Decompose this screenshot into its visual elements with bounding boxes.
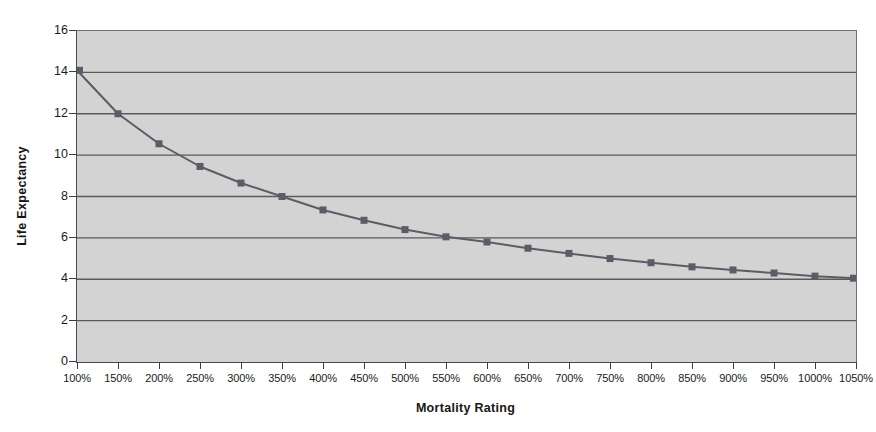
x-axis-tick-mark [528,362,529,369]
y-axis-tick-labels: 0246810121416 [28,30,68,361]
data-point-marker [361,217,368,224]
x-axis-tick-mark [200,362,201,369]
x-axis-tick-mark [77,362,78,369]
y-axis-tick-label: 10 [34,147,68,161]
data-point-marker [402,226,409,233]
x-axis-tick-mark [610,362,611,369]
x-axis-tick-label: 300% [227,372,255,384]
x-axis-tick-label: 550% [432,372,460,384]
x-axis-tick-label: 450% [350,372,378,384]
data-point-marker [77,67,83,74]
data-point-marker [320,206,327,213]
x-axis-tick-label: 150% [104,372,132,384]
y-axis-tick-label: 12 [34,106,68,120]
x-axis-tick-label: 200% [145,372,173,384]
x-axis-tick-mark [569,362,570,369]
x-axis-tick-label: 700% [555,372,583,384]
data-point-marker [238,180,245,187]
data-point-marker [115,110,122,117]
plot-area [76,30,857,363]
x-axis-tick-mark [774,362,775,369]
series-line-life-expectancy [77,70,856,278]
data-point-marker [484,239,491,246]
y-axis-tick-label: 6 [34,230,68,244]
x-axis-tick-mark [118,362,119,369]
y-axis-tick-label: 16 [34,23,68,37]
x-axis-tick-mark [487,362,488,369]
x-axis-tick-mark [815,362,816,369]
x-axis-tick-mark [364,362,365,369]
data-point-marker [156,140,163,147]
x-axis-tick-mark [323,362,324,369]
x-axis-tick-label: 750% [596,372,624,384]
data-point-marker [850,275,856,282]
data-point-marker [197,163,204,170]
y-axis-tick-mark [69,237,76,238]
x-axis-tick-label: 1050% [839,372,873,384]
y-axis-tick-mark [69,361,76,362]
data-point-marker [812,273,819,280]
y-axis-tick-label: 2 [34,313,68,327]
x-axis-tick-label: 100% [63,372,91,384]
chart-container: Life Expectancy 0246810121416 100%150%20… [0,0,876,432]
y-axis-tick-mark [69,113,76,114]
y-axis-tick-mark [69,278,76,279]
data-point-marker [279,193,286,200]
y-axis-tick-label: 0 [34,354,68,368]
x-axis-tick-label: 900% [719,372,747,384]
y-axis-tick-label: 14 [34,64,68,78]
x-axis-tick-mark [159,362,160,369]
data-point-marker [607,255,614,262]
y-axis-tick-mark [69,154,76,155]
x-axis-tick-label: 850% [678,372,706,384]
y-axis-tick-mark [69,30,76,31]
data-point-marker [689,263,696,270]
y-axis-title-label: Life Expectancy [15,146,29,246]
x-axis-tick-label: 800% [637,372,665,384]
data-point-marker [771,270,778,277]
x-axis-tick-mark [651,362,652,369]
data-point-marker [648,259,655,266]
x-axis-title: Mortality Rating [76,398,855,416]
y-axis-tick-mark [69,71,76,72]
x-axis-tick-label: 950% [760,372,788,384]
x-axis-tick-marks [76,362,857,370]
y-axis-tick-label: 4 [34,271,68,285]
x-axis-title-label: Mortality Rating [416,401,515,415]
y-axis-tick-mark [69,320,76,321]
x-axis-tick-mark [282,362,283,369]
x-axis-tick-mark [733,362,734,369]
x-axis-tick-mark [856,362,857,369]
x-axis-tick-labels: 100%150%200%250%300%350%400%450%500%550%… [76,372,857,392]
x-axis-tick-mark [405,362,406,369]
x-axis-tick-label: 500% [391,372,419,384]
plot-svg [77,31,856,362]
x-axis-tick-label: 650% [514,372,542,384]
y-axis-tick-label: 8 [34,189,68,203]
x-axis-tick-mark [446,362,447,369]
data-point-marker [566,250,573,257]
x-axis-tick-label: 1000% [798,372,832,384]
data-point-marker [730,266,737,273]
x-axis-tick-label: 600% [473,372,501,384]
x-axis-tick-label: 350% [268,372,296,384]
x-axis-tick-label: 250% [186,372,214,384]
data-point-marker [443,233,450,240]
x-axis-tick-mark [692,362,693,369]
x-axis-tick-mark [241,362,242,369]
y-axis-tick-mark [69,196,76,197]
data-point-marker [525,245,532,252]
x-axis-tick-label: 400% [309,372,337,384]
